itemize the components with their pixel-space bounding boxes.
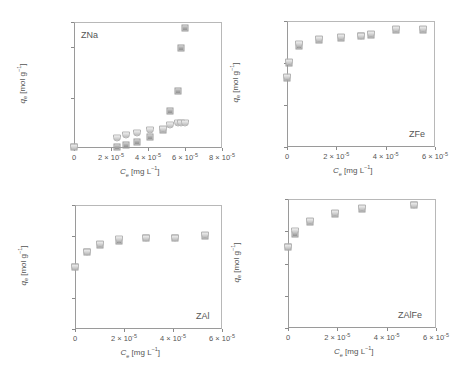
y-axis-label: qe [mol g−1] [18, 63, 27, 103]
x-tick-label: 2 × 10-5 [98, 153, 124, 162]
x-tick-label: 4 × 10-5 [373, 152, 399, 161]
y-axis-label: qe [mol g−1] [19, 245, 28, 285]
y-tick-mark [284, 21, 287, 22]
x-tick-mark [336, 147, 337, 150]
x-tick-mark [222, 329, 223, 332]
x-tick-mark [435, 147, 436, 150]
data-point-square [146, 133, 153, 140]
y-tick-mark [284, 105, 287, 106]
x-tick-label: 4 × 10-5 [374, 333, 400, 342]
data-point-square [122, 142, 129, 149]
y-axis-label: qe [mol g−1] [232, 242, 241, 282]
y-tick-mark [71, 98, 74, 99]
x-tick-label: 2 × 10-5 [324, 333, 350, 342]
x-tick-label: 6 × 10-5 [209, 334, 235, 343]
y-tick-mark [285, 199, 288, 200]
x-axis-label: Ce [mg L−1] [333, 166, 373, 175]
y-tick-mark [71, 22, 74, 23]
x-tick-mark [173, 329, 174, 332]
data-point-square [113, 143, 120, 150]
data-point-square [174, 88, 181, 95]
x-tick-mark [148, 148, 149, 151]
x-tick-mark [436, 328, 437, 331]
x-tick-mark [111, 148, 112, 151]
panel-label: ZFe [409, 129, 425, 139]
y-axis-label: qe [mol g−1] [231, 62, 240, 102]
panel-label: ZAl [196, 311, 210, 321]
x-tick-label: 6 × 10-5 [172, 153, 198, 162]
data-point-square [167, 108, 174, 115]
x-tick-mark [185, 148, 186, 151]
y-tick-mark [285, 264, 288, 265]
data-point-square [182, 25, 189, 32]
x-tick-label: 0 [285, 152, 289, 161]
x-tick-label: 6 × 10-5 [422, 152, 448, 161]
y-tick-mark [285, 296, 288, 297]
x-tick-label: 4 × 10-5 [135, 153, 161, 162]
x-tick-mark [337, 328, 338, 331]
x-tick-label: 2 × 10-5 [323, 152, 349, 161]
x-tick-mark [288, 328, 289, 331]
x-tick-mark [287, 147, 288, 150]
y-tick-mark [72, 298, 75, 299]
data-point-square [133, 138, 140, 145]
y-tick-mark [285, 231, 288, 232]
x-tick-mark [124, 329, 125, 332]
x-tick-label: 0 [72, 153, 76, 162]
x-tick-label: 0 [73, 334, 77, 343]
x-tick-mark [75, 329, 76, 332]
x-tick-label: 0 [286, 333, 290, 342]
panel-label: ZAlFe [398, 310, 422, 320]
x-tick-label: 8 × 10-5 [209, 153, 235, 162]
x-tick-mark [387, 328, 388, 331]
y-tick-mark [72, 236, 75, 237]
y-tick-mark [71, 47, 74, 48]
x-axis-label: Ce [mg L−1] [120, 167, 160, 176]
x-axis-label: Ce [mg L−1] [334, 347, 374, 356]
x-tick-label: 4 × 10-5 [160, 334, 186, 343]
x-tick-label: 6 × 10-5 [423, 333, 449, 342]
x-tick-mark [386, 147, 387, 150]
y-tick-mark [72, 205, 75, 206]
x-tick-mark [222, 148, 223, 151]
data-point-square [178, 45, 185, 52]
panel-label: ZNa [81, 30, 98, 40]
x-axis-label: Ce [mg L−1] [121, 348, 161, 357]
x-tick-label: 2 × 10-5 [111, 334, 137, 343]
